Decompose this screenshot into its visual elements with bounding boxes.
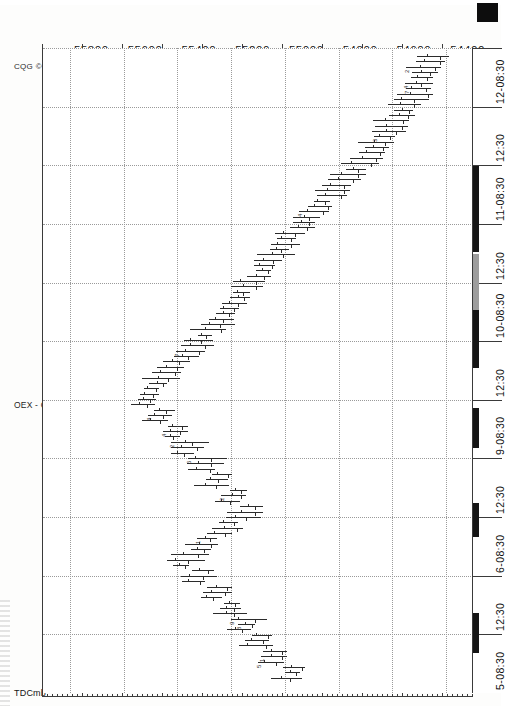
ohlc-bar [163,361,189,362]
ohlc-open-tick [229,601,230,604]
ohlc-close-tick [440,62,441,65]
ohlc-close-tick [409,111,410,114]
ohlc-bar [131,404,155,405]
ohlc-close-tick [421,84,422,87]
ohlc-bar [188,458,226,459]
ruler-minor-tick [117,694,118,697]
ohlc-bar [346,169,367,170]
ruler-minor-tick [382,694,383,697]
ohlc-close-tick [197,448,198,451]
ohlc-open-tick [374,140,375,143]
ohlc-bar [231,619,268,620]
ohlc-bar [154,410,175,411]
ohlc-bar [191,549,211,550]
ohlc-close-tick [252,625,253,628]
ohlc-bar [171,554,209,555]
ohlc-bar [374,136,395,137]
ohlc-open-tick [298,225,299,228]
ohlc-open-tick [264,660,265,663]
ohlc-bar [263,651,286,652]
ohlc-close-tick [211,464,212,467]
ohlc-close-tick [200,582,201,585]
ohlc-bar [142,378,180,379]
ruler-minor-tick [232,694,233,697]
ruler-minor-tick [197,694,198,697]
ohlc-bar [293,217,319,218]
ohlc-bar [207,587,232,588]
ruler-minor-tick [127,694,128,697]
ruler-minor-tick [157,694,158,697]
ohlc-bar [412,72,438,73]
ruler-minor-tick [92,694,93,697]
ohlc-close-tick [163,384,164,387]
time-gridline [43,224,473,225]
chart-plot-area[interactable]: 2473474426219815 [42,48,474,693]
ruler-minor-tick [407,694,408,697]
ohlc-open-tick [245,622,246,625]
ruler-minor-tick [287,694,288,697]
ohlc-bar [285,672,300,673]
ohlc-open-tick [353,167,354,170]
ruler-minor-tick [187,694,188,697]
ruler-minor-tick [147,694,148,697]
ohlc-open-tick [235,515,236,518]
ohlc-close-tick [273,261,274,264]
ohlc-bar [176,351,205,352]
session-gutter-block [473,503,479,537]
ruler-minor-tick [447,694,448,697]
ohlc-bar [194,485,229,486]
ohlc-close-tick [295,234,296,237]
ohlc-close-tick [344,186,345,189]
ruler-minor-tick [357,694,358,697]
ohlc-bar [185,544,218,545]
ruler-minor-tick [72,694,73,697]
ohlc-bar [209,319,234,320]
ohlc-close-tick [296,673,297,676]
ruler-minor-tick [182,694,183,697]
ohlc-open-tick [237,290,238,293]
ohlc-close-tick [182,427,183,430]
ohlc-open-tick [379,134,380,137]
ohlc-open-tick [271,649,272,652]
ohlc-bar [216,313,235,314]
ruler-minor-tick [67,694,68,697]
time-gridline [43,400,473,401]
ohlc-open-tick [199,542,200,545]
session-gutter-block [473,166,479,252]
ruler-minor-tick [57,694,58,697]
ruler-minor-tick [107,694,108,697]
ohlc-bar [144,388,158,389]
ohlc-open-tick [198,461,199,464]
ohlc-close-tick [168,379,169,382]
ohlc-close-tick [328,207,329,210]
ruler-minor-tick [192,694,193,697]
ruler-minor-tick [457,694,458,697]
ohlc-close-tick [156,389,157,392]
td-combo-count-annotation: 5 [256,664,262,667]
time-axis-label: 10-08:30 [494,294,506,339]
ohlc-bar [341,163,380,164]
ohlc-close-tick [230,502,231,505]
ruler-minor-tick [387,694,388,697]
ohlc-bar [275,233,304,234]
ohlc-close-tick [402,127,403,130]
ohlc-bar [254,260,282,261]
ohlc-open-tick [170,434,171,437]
ohlc-bar [372,131,407,132]
time-axis-label: 12:30 [494,486,506,514]
ohlc-open-tick [214,531,215,534]
ohlc-bar [322,185,351,186]
ohlc-bar [198,335,212,336]
ruler-minor-tick [142,694,143,697]
ohlc-close-tick [188,561,189,564]
ohlc-open-tick [238,295,239,298]
ohlc-bar [227,629,252,630]
ohlc-close-tick [150,400,151,403]
ohlc-close-tick [218,480,219,483]
ruler-minor-tick [272,694,273,697]
ohlc-open-tick [172,359,173,362]
ohlc-bar [388,104,421,105]
ohlc-bar [314,201,330,202]
ohlc-open-tick [158,376,159,379]
ohlc-bar [212,528,243,529]
